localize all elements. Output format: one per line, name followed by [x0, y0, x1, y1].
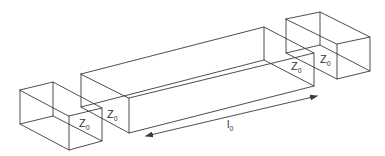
length-l0-label: l0 [227, 118, 233, 132]
middle-box-z0-label: Z0 [107, 108, 118, 122]
waveguide-diagram: Z0 Z0 Z0 Z0 l0 [0, 0, 385, 156]
right-box-z0-label: Z0 [320, 53, 331, 67]
left-box [20, 82, 102, 150]
left-box-z0-label: Z0 [79, 117, 90, 131]
middle-box-right-z0-label: Z0 [291, 60, 302, 74]
